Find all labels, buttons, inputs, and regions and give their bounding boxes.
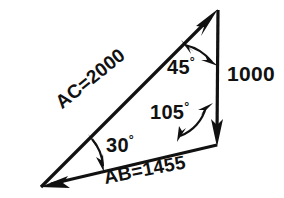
angle-105-arrowhead-top bbox=[198, 103, 213, 115]
side-bc-line bbox=[217, 10, 218, 136]
vector-triangle-diagram: AC=2000 AB=1455 1000 45° 105° 30° bbox=[0, 0, 284, 198]
angle-45-value: 45 bbox=[167, 56, 190, 78]
angle-105-value: 105 bbox=[150, 101, 184, 123]
side-bc-label: 1000 bbox=[227, 63, 275, 84]
degree-icon: ° bbox=[129, 133, 134, 147]
degree-icon: ° bbox=[184, 100, 189, 114]
angle-30-label: 30° bbox=[106, 134, 134, 155]
angle-45-label: 45° bbox=[167, 56, 195, 77]
degree-icon: ° bbox=[190, 55, 195, 69]
side-ac-arrowhead bbox=[196, 9, 218, 36]
angle-45-arrowhead-right bbox=[201, 55, 218, 66]
angle-30-value: 30 bbox=[106, 134, 129, 156]
angle-105-label: 105° bbox=[150, 101, 189, 122]
